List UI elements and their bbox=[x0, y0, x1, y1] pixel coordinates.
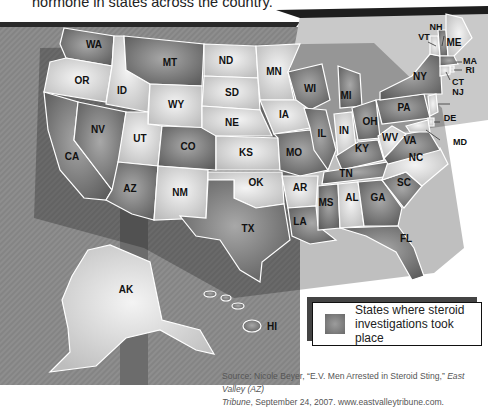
legend-line-2: investigations took place bbox=[355, 317, 481, 345]
source-suffix: , September 24, 2007. www.eastvalleytrib… bbox=[251, 397, 444, 407]
svg-text:KS: KS bbox=[239, 147, 253, 158]
svg-text:NY: NY bbox=[413, 71, 427, 82]
svg-text:TX: TX bbox=[242, 223, 255, 234]
svg-text:NC: NC bbox=[409, 152, 423, 163]
svg-text:NE: NE bbox=[225, 117, 239, 128]
state-CT[interactable] bbox=[440, 66, 450, 76]
svg-text:SC: SC bbox=[397, 177, 411, 188]
svg-text:OR: OR bbox=[75, 75, 91, 86]
svg-text:AK: AK bbox=[119, 284, 134, 295]
svg-text:OH: OH bbox=[363, 116, 378, 127]
legend-line-1: States where steroid bbox=[355, 303, 481, 317]
svg-text:NM: NM bbox=[172, 187, 188, 198]
svg-text:RI: RI bbox=[466, 65, 475, 75]
svg-text:IA: IA bbox=[279, 109, 289, 120]
svg-text:SD: SD bbox=[225, 87, 239, 98]
svg-text:AZ: AZ bbox=[123, 183, 136, 194]
svg-text:ME: ME bbox=[447, 37, 462, 48]
svg-text:AL: AL bbox=[345, 192, 358, 203]
svg-text:MT: MT bbox=[163, 57, 177, 68]
svg-text:OK: OK bbox=[249, 177, 265, 188]
source-publication-2: Tribune bbox=[222, 397, 251, 407]
svg-text:NV: NV bbox=[91, 124, 105, 135]
svg-text:PA: PA bbox=[397, 102, 410, 113]
svg-text:MO: MO bbox=[286, 147, 302, 158]
svg-text:VA: VA bbox=[403, 135, 416, 146]
svg-text:WY: WY bbox=[168, 99, 184, 110]
svg-text:KY: KY bbox=[355, 143, 369, 154]
svg-text:WA: WA bbox=[86, 39, 102, 50]
legend-swatch bbox=[325, 314, 345, 334]
svg-text:CA: CA bbox=[65, 151, 79, 162]
svg-text:GA: GA bbox=[371, 192, 386, 203]
svg-text:FL: FL bbox=[400, 233, 412, 244]
svg-text:IL: IL bbox=[318, 128, 327, 139]
svg-text:WI: WI bbox=[304, 83, 316, 94]
us-map: WA OR CA NV ID MT WY UT CO AZ NM ND SD N… bbox=[0, 0, 488, 410]
legend-text: States where steroid investigations took… bbox=[355, 303, 481, 345]
svg-text:NH: NH bbox=[430, 22, 443, 32]
svg-text:MD: MD bbox=[453, 137, 467, 147]
svg-text:IN: IN bbox=[339, 125, 349, 136]
svg-text:LA: LA bbox=[293, 216, 306, 227]
svg-text:TN: TN bbox=[339, 168, 352, 179]
svg-text:CO: CO bbox=[181, 141, 196, 152]
legend-box: States where steroid investigations took… bbox=[312, 302, 482, 346]
source-citation: Source: Nicole Beyer, “E.V. Men Arrested… bbox=[222, 370, 484, 409]
svg-text:HI: HI bbox=[267, 321, 277, 332]
svg-text:CT: CT bbox=[452, 77, 464, 87]
svg-text:MI: MI bbox=[340, 90, 351, 101]
svg-text:NJ: NJ bbox=[452, 87, 464, 97]
source-prefix: Source: Nicole Beyer, “E.V. Men Arrested… bbox=[222, 371, 447, 381]
svg-text:DE: DE bbox=[444, 113, 457, 123]
svg-text:MS: MS bbox=[319, 197, 334, 208]
svg-text:UT: UT bbox=[133, 133, 146, 144]
svg-text:ND: ND bbox=[219, 55, 233, 66]
svg-text:AR: AR bbox=[293, 182, 308, 193]
state-MA[interactable] bbox=[440, 56, 458, 66]
svg-text:VT: VT bbox=[418, 32, 430, 42]
svg-text:MN: MN bbox=[266, 66, 282, 77]
state-NJ[interactable] bbox=[428, 94, 438, 116]
svg-text:ID: ID bbox=[117, 85, 127, 96]
svg-text:WV: WV bbox=[382, 132, 398, 143]
